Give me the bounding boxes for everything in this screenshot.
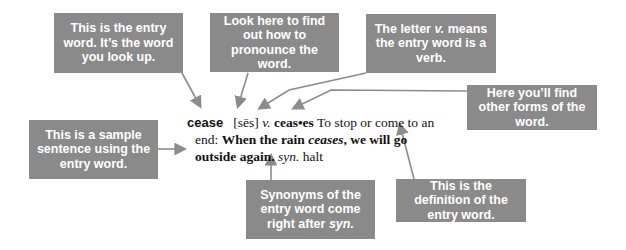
inflection: ceas•es	[274, 115, 314, 130]
callout-entry-word: This is the entry word. It’s the word yo…	[54, 13, 183, 73]
sample-sentence-b: , we will go	[344, 132, 408, 147]
entry-line-2: end: When the rain ceases, we will go	[187, 131, 447, 148]
callout-text: Here you’ll find other forms of the word…	[473, 86, 591, 130]
entry-line-3: outside again. syn. halt	[187, 148, 447, 165]
callout-other-forms: Here you’ll find other forms of the word…	[467, 85, 597, 130]
callout-definition: This is the definition of the entry word…	[396, 179, 526, 222]
callout-text: The letter v. means the entry word is a …	[372, 22, 490, 66]
definition-end: end:	[195, 132, 218, 147]
callout-pronounce: Look here to find out how to pronounce t…	[210, 13, 339, 72]
callout-sample-sentence: This is a sample sentence using the entr…	[29, 120, 158, 179]
callout-text: Synonyms of the entry word come right af…	[252, 188, 369, 232]
callout-text: Look here to find out how to pronounce t…	[216, 14, 333, 72]
callout-text-italic: v.	[434, 22, 444, 36]
arrow-forms	[294, 90, 467, 108]
callout-text-italic: syn.	[329, 217, 354, 231]
dictionary-entry: cease [sēs] v. ceas•es To stop or come t…	[187, 114, 447, 165]
syn-label: syn.	[278, 149, 299, 164]
part-of-speech: v.	[262, 115, 270, 130]
synonym: halt	[303, 149, 323, 164]
callout-verb: The letter v. means the entry word is a …	[366, 14, 496, 73]
callout-text-a: The letter	[375, 22, 435, 36]
sample-sentence-a: When the rain	[222, 132, 305, 147]
headword: cease	[187, 115, 223, 130]
callout-synonyms: Synonyms of the entry word come right af…	[246, 180, 375, 239]
callout-text: This is the entry word. It’s the word yo…	[60, 21, 177, 65]
callout-text: This is a sample sentence using the entr…	[35, 128, 152, 172]
definition-text: To stop or come to an	[317, 115, 434, 130]
arrow-pronounce	[238, 73, 248, 106]
callout-text: This is the definition of the entry word…	[402, 179, 520, 223]
pronunciation: [sēs]	[233, 115, 259, 130]
arrow-entry-word	[182, 73, 200, 106]
sample-sentence-c: outside again.	[195, 149, 275, 164]
sample-sentence-italic: ceases	[308, 132, 343, 147]
